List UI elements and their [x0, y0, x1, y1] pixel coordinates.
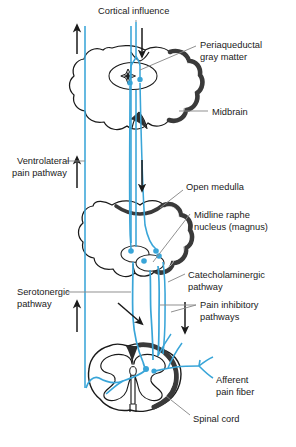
label-afferent-pain-fiber-line1: Afferent — [216, 375, 249, 385]
pain-pathway-diagram: Cortical influence Periaqueductal gray m… — [0, 0, 296, 447]
label-serotonergic-line2: pathway — [17, 299, 52, 309]
label-ventrolateral-pain-pathway-line2: pain pathway — [12, 168, 67, 178]
leader-pain-inhibitory-b — [171, 305, 196, 312]
pag-synapse-terminal-left — [127, 80, 132, 85]
afferent-fiber-branch-stub — [199, 360, 200, 366]
label-periaqueductal-gray-matter-line2: gray matter — [200, 52, 247, 62]
leader-catecholaminergic — [168, 274, 185, 282]
raphe-synapse-terminal-3 — [141, 258, 147, 264]
afferent-fiber-branch-lower — [199, 366, 213, 378]
label-midbrain: Midbrain — [212, 107, 248, 117]
label-serotonergic-line1: Serotonergic — [17, 287, 70, 297]
raphe-synapse-terminal-1 — [128, 248, 134, 254]
spinal-cord-section — [88, 344, 181, 412]
pag-synapse-terminal-right — [137, 77, 142, 82]
label-periaqueductal-gray-matter-line1: Periaqueductal — [200, 40, 262, 50]
leader-spinal-cord — [166, 396, 190, 415]
label-catecholaminergic-line2: pathway — [188, 282, 223, 292]
figure-root: Cortical influence Periaqueductal gray m… — [0, 0, 296, 447]
label-afferent-pain-fiber-line2: pain fiber — [216, 387, 254, 397]
central-canal — [130, 367, 137, 376]
label-catecholaminergic-line1: Catecholaminergic — [188, 270, 265, 280]
label-ventrolateral-pain-pathway-line1: Ventrolateral — [17, 156, 69, 166]
arrow-inhibitory-diagonal — [118, 303, 140, 322]
label-midline-raphe-line1: Midline raphe — [194, 210, 250, 220]
label-midline-raphe-line2: nucleus (magnus) — [194, 222, 268, 232]
catecholaminergic-fiber-3 — [163, 262, 165, 354]
label-spinal-cord: Spinal cord — [193, 414, 240, 424]
raphe-synapse-terminal-2 — [153, 248, 159, 254]
catecholaminergic-fiber-2 — [158, 266, 159, 356]
label-open-medulla: Open medulla — [186, 182, 245, 192]
label-pain-inhibitory-line1: Pain inhibitory — [200, 300, 259, 310]
label-pain-inhibitory-line2: pathways — [200, 312, 240, 322]
label-cortical-influence: Cortical influence — [98, 6, 169, 16]
afferent-fiber-branch-upper — [199, 357, 213, 366]
